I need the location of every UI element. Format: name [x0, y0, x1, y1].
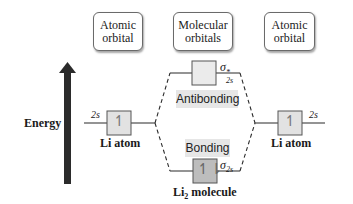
right-2s-label: 2s — [309, 109, 318, 120]
right-electron-up: ↿ — [284, 112, 297, 130]
2s-subscript: 2s — [226, 76, 233, 85]
antibonding-orbital-box — [192, 61, 216, 85]
energy-arrow-icon — [59, 62, 76, 184]
2s-subscript: 2s — [226, 165, 233, 174]
li-text: Li — [173, 185, 184, 199]
sigma-2s-label: σ2s — [220, 158, 233, 174]
li2-molecule-label: Li2 molecule — [173, 185, 237, 201]
antibonding-label: Antibonding — [176, 90, 238, 108]
molecule-text: molecule — [188, 185, 236, 199]
left-2s-label: 2s — [91, 109, 100, 120]
right-li-atom-label: Li atom — [271, 136, 311, 151]
left-electron-up: ↿ — [113, 112, 126, 130]
left-li-atom-label: Li atom — [100, 136, 140, 151]
energy-axis-label: Energy — [24, 116, 61, 131]
bonding-label: Bonding — [185, 139, 230, 157]
sigma-star-2s-label: σ*2s — [220, 60, 236, 75]
